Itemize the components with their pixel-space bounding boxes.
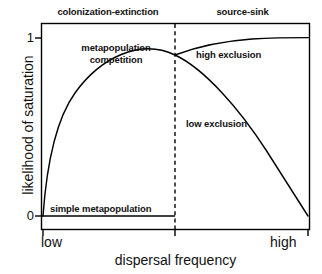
annotation-simple-metapopulation: simple metapopulation <box>50 203 190 215</box>
annotation-metapopulation-competition: metapopulation competition <box>56 42 176 65</box>
y-axis-title: likelihood of saturation <box>20 21 36 229</box>
x-axis-tick-label-high: high <box>270 234 296 250</box>
x-axis-title: dispersal frequency <box>41 252 310 268</box>
x-axis-tick-label-low: low <box>41 234 62 250</box>
annotation-metapopulation-competition-line2: competition <box>90 54 143 65</box>
chart-figure: colonization-extinction source-sink 1 0 … <box>0 0 322 274</box>
annotation-high-exclusion: high exclusion <box>196 49 306 61</box>
annotation-low-exclusion: low exclusion <box>186 118 296 130</box>
annotation-metapopulation-competition-line1: metapopulation <box>81 42 150 53</box>
